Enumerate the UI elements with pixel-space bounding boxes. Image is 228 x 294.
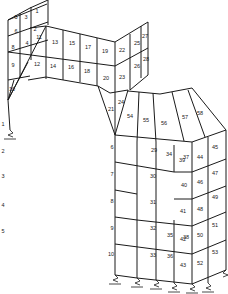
element-label-43: 43 (180, 262, 186, 268)
element-label-25: 25 (134, 40, 140, 46)
element-label-5: 5 (14, 14, 17, 20)
element-label-49: 49 (212, 194, 218, 200)
member-label-10: 10 (108, 251, 114, 257)
member-labels: 12345678910 (1, 121, 114, 257)
element-label-24: 24 (118, 99, 124, 105)
support-symbols (4, 130, 228, 293)
member-label-6: 6 (110, 144, 113, 150)
element-label-13: 13 (52, 39, 58, 45)
element-label-39: 39 (179, 157, 185, 163)
element-label-35: 35 (167, 232, 173, 238)
element-label-18: 18 (84, 68, 90, 74)
member-label-7: 7 (110, 171, 113, 177)
element-label-9: 9 (11, 62, 14, 68)
member-label-1: 1 (1, 121, 4, 127)
element-label-17: 17 (85, 44, 91, 50)
element-label-57: 57 (182, 114, 188, 120)
member-label-2: 2 (1, 148, 4, 154)
element-label-21: 21 (108, 106, 114, 112)
element-label-27: 27 (142, 33, 148, 39)
element-label-31: 31 (150, 199, 156, 205)
element-label-41: 41 (180, 208, 186, 214)
element-label-12: 12 (34, 61, 40, 67)
element-label-40: 40 (181, 182, 187, 188)
element-label-14: 14 (50, 63, 56, 69)
element-label-56: 56 (161, 120, 167, 126)
element-label-34: 34 (166, 151, 172, 157)
element-label-58: 58 (197, 110, 203, 116)
element-label-2: 2 (33, 26, 36, 32)
element-label-3: 3 (24, 14, 27, 20)
element-label-51: 51 (212, 222, 218, 228)
element-label-11: 11 (36, 34, 42, 40)
element-label-19: 19 (102, 48, 108, 54)
element-label-30: 30 (150, 173, 156, 179)
element-label-28: 28 (143, 56, 149, 62)
member-label-9: 9 (110, 225, 113, 231)
member-label-5: 5 (1, 228, 4, 234)
mesh-lines: 1234568910111213141516171819202122232425… (0, 0, 228, 294)
element-label-33: 33 (150, 252, 156, 258)
element-label-4: 4 (25, 40, 28, 46)
element-label-47: 47 (212, 170, 218, 176)
element-label-8: 8 (11, 44, 14, 50)
member-label-4: 4 (1, 202, 4, 208)
element-label-32: 32 (150, 225, 156, 231)
element-label-10: 10 (9, 86, 15, 92)
element-label-36: 36 (167, 253, 173, 259)
element-label-29: 29 (151, 147, 157, 153)
element-label-1: 1 (35, 8, 38, 14)
element-label-45: 45 (212, 144, 218, 150)
element-label-48: 48 (197, 206, 203, 212)
element-label-16: 16 (68, 64, 74, 70)
member-label-8: 8 (110, 198, 113, 204)
element-label-15: 15 (69, 40, 75, 46)
element-label-55: 55 (143, 117, 149, 123)
fe-mesh-diagram: 1234568910111213141516171819202122232425… (0, 0, 228, 294)
element-label-44: 44 (197, 154, 203, 160)
element-label-23: 23 (119, 74, 125, 80)
element-label-50: 50 (197, 232, 203, 238)
element-label-26: 26 (134, 63, 140, 69)
element-label-6: 6 (14, 28, 17, 34)
element-label-46: 46 (197, 179, 203, 185)
element-label-20: 20 (103, 75, 109, 81)
element-label-53: 53 (212, 249, 218, 255)
element-label-54: 54 (127, 113, 133, 119)
element-label-42: 42 (180, 236, 186, 242)
element-label-52: 52 (197, 260, 203, 266)
member-label-3: 3 (1, 173, 4, 179)
element-label-22: 22 (119, 47, 125, 53)
